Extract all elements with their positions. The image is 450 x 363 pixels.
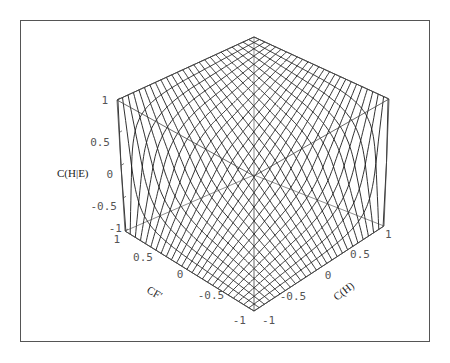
x-tick-neg0.5: -0.5 bbox=[280, 290, 307, 303]
z-tick-0: 0 bbox=[106, 168, 113, 181]
mesh-line-x bbox=[249, 40, 379, 230]
z-axis: 1 0.5 0 -0.5 -1 C(H|E) bbox=[57, 94, 122, 235]
mesh-line-x bbox=[227, 50, 358, 243]
x-tick-0.5: 0.5 bbox=[350, 248, 370, 261]
box-edge bbox=[254, 37, 389, 99]
y-tick-0: 0 bbox=[177, 268, 184, 281]
y-tick-0.5: 0.5 bbox=[133, 251, 153, 264]
y-tick-neg1: -1 bbox=[233, 314, 246, 327]
z-tick-0.5: 0.5 bbox=[90, 136, 110, 149]
mesh-line-y bbox=[130, 40, 259, 235]
surface-plot: 1 0.5 0 -0.5 -1 C(H|E) 1 0.5 0 -0.5 -1 C… bbox=[0, 0, 450, 363]
mesh-line-y bbox=[202, 74, 335, 279]
mesh-line-x bbox=[172, 75, 306, 277]
z-tick-neg0.5: -0.5 bbox=[91, 200, 118, 213]
z-axis-label: C(H|E) bbox=[57, 167, 89, 180]
x-tick-neg1: -1 bbox=[262, 314, 275, 327]
y-axis-label: CF' bbox=[145, 283, 164, 301]
surface-mesh bbox=[118, 37, 388, 311]
box-edge bbox=[117, 37, 254, 100]
y-tick-neg0.5: -0.5 bbox=[198, 289, 225, 302]
z-tick-mark bbox=[121, 164, 124, 166]
y-axis: 1 0.5 0 -0.5 -1 CF' bbox=[113, 233, 246, 327]
x-axis-label: C(H) bbox=[331, 279, 357, 303]
x-tick-0: 0 bbox=[325, 269, 332, 282]
box-edge bbox=[384, 99, 389, 226]
z-tick-1: 1 bbox=[101, 94, 108, 107]
mesh-line-y bbox=[223, 84, 357, 292]
y-tick-1: 1 bbox=[113, 233, 120, 246]
x-tick-1: 1 bbox=[385, 228, 392, 241]
mesh-line-x bbox=[238, 45, 369, 237]
